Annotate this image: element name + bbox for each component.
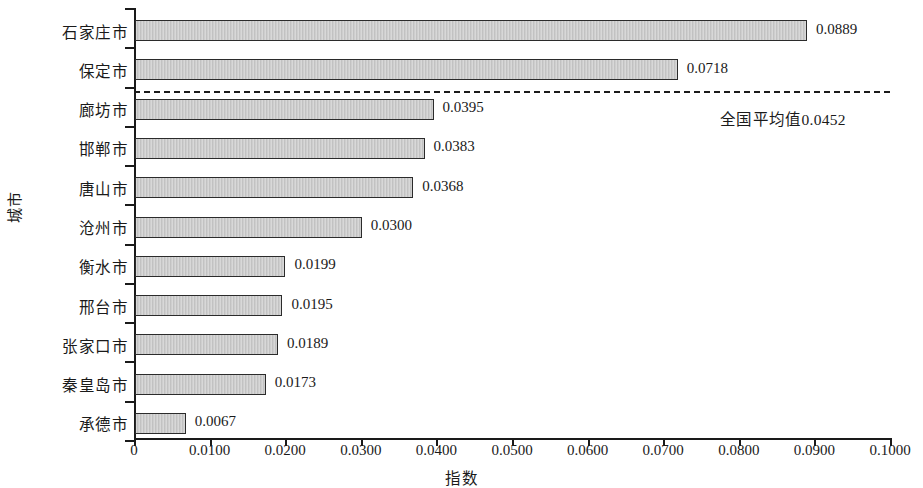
x-axis-tick-label: 0	[130, 442, 138, 459]
bar[interactable]	[135, 138, 425, 159]
x-axis-tick-label: 0.0700	[643, 442, 684, 459]
y-axis-tick	[125, 322, 134, 324]
bar-value-label: 0.0199	[294, 256, 335, 273]
category-label: 邢台市	[6, 295, 128, 317]
category-label: 保定市	[6, 59, 128, 81]
y-axis-tick	[125, 126, 134, 128]
x-axis-tick-label: 0.0400	[416, 442, 457, 459]
bar-value-label: 0.0195	[291, 296, 332, 313]
category-label: 唐山市	[6, 177, 128, 199]
x-axis-tick-label: 0.0500	[491, 442, 532, 459]
bar[interactable]	[135, 295, 282, 316]
category-label: 承德市	[6, 412, 128, 434]
national-average-line	[134, 91, 890, 93]
category-label: 石家庄市	[6, 20, 128, 42]
bar[interactable]	[135, 20, 807, 41]
category-label: 廊坊市	[6, 98, 128, 120]
category-label: 沧州市	[6, 216, 128, 238]
y-axis-tick	[125, 165, 134, 167]
bar-value-label: 0.0383	[434, 138, 475, 155]
y-axis-tick	[125, 244, 134, 246]
bar-value-label: 0.0368	[422, 178, 463, 195]
y-axis-tick	[125, 204, 134, 206]
y-axis-tick	[125, 361, 134, 363]
bar-value-label: 0.0718	[687, 60, 728, 77]
x-axis-tick-label: 0.0100	[189, 442, 230, 459]
category-label: 邯郸市	[6, 137, 128, 159]
x-axis-tick-label: 0.0200	[265, 442, 306, 459]
x-axis-tick-label: 0.0800	[718, 442, 759, 459]
category-label: 张家口市	[6, 334, 128, 356]
bar-chart: 城市 0.08890.07180.03950.03830.03680.03000…	[0, 0, 923, 488]
x-axis-tick-label: 0.0300	[340, 442, 381, 459]
plot-area: 0.08890.07180.03950.03830.03680.03000.01…	[134, 8, 890, 440]
bar-value-label: 0.0395	[443, 99, 484, 116]
bar[interactable]	[135, 217, 362, 238]
bar-value-label: 0.0889	[816, 21, 857, 38]
category-label: 衡水市	[6, 255, 128, 277]
bar[interactable]	[135, 177, 413, 198]
x-axis-tick-label: 0.0600	[567, 442, 608, 459]
bar-value-label: 0.0300	[371, 217, 412, 234]
bar-value-label: 0.0067	[195, 413, 236, 430]
bar[interactable]	[135, 334, 278, 355]
bar-value-label: 0.0189	[287, 335, 328, 352]
bar[interactable]	[135, 256, 285, 277]
y-axis-tick	[125, 87, 134, 89]
y-axis-tick	[125, 283, 134, 285]
bar[interactable]	[135, 413, 186, 434]
x-axis-title: 指数	[0, 466, 923, 488]
bar[interactable]	[135, 59, 678, 80]
category-label: 秦皇岛市	[6, 373, 128, 395]
y-axis-tick	[125, 8, 134, 10]
bar[interactable]	[135, 374, 266, 395]
y-axis-tick	[125, 47, 134, 49]
bar[interactable]	[135, 99, 434, 120]
national-average-label: 全国平均值0.0452	[720, 107, 846, 129]
x-axis-tick-label: 0.1000	[869, 442, 910, 459]
bar-value-label: 0.0173	[275, 374, 316, 391]
y-axis-tick	[125, 401, 134, 403]
x-axis-tick-label: 0.0900	[794, 442, 835, 459]
